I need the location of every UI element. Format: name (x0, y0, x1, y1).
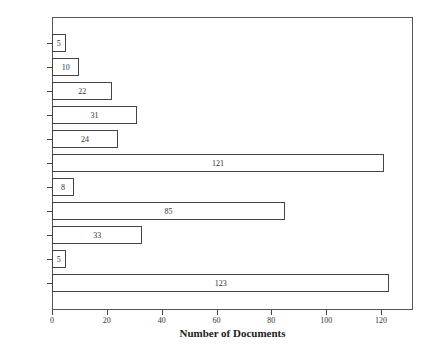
bar-value-label: 24 (81, 135, 89, 144)
x-tick-label: 40 (147, 316, 177, 325)
bar-value-label: 121 (212, 159, 224, 168)
bar-value-label: 85 (165, 207, 173, 216)
bar-media: 123 (52, 274, 389, 292)
bar-news: 8 (52, 178, 74, 196)
x-tick-label: 60 (202, 316, 232, 325)
bar-elected: 85 (52, 202, 285, 220)
y-tick (47, 43, 52, 44)
x-tick (52, 310, 53, 315)
x-axis-title: Number of Documents (52, 327, 413, 339)
x-tick-label: 120 (366, 316, 396, 325)
bar-value-label: 123 (215, 279, 227, 288)
x-tick-label: 20 (92, 316, 122, 325)
bar-lawyers: 5 (52, 250, 66, 268)
bar-value-label: 8 (61, 183, 65, 192)
y-tick (47, 67, 52, 68)
bar-value-label: 22 (78, 87, 86, 96)
bar-value-label: 5 (57, 255, 61, 264)
bar-technology: 121 (52, 154, 384, 172)
x-tick (217, 310, 218, 315)
x-tick-label: 80 (256, 316, 286, 325)
x-tick (107, 310, 108, 315)
y-tick (47, 115, 52, 116)
x-tick-label: 0 (37, 316, 67, 325)
y-tick (47, 91, 52, 92)
bar-libraries: 22 (52, 82, 112, 100)
y-tick (47, 211, 52, 212)
bar-scholars: 24 (52, 130, 118, 148)
y-tick (47, 163, 52, 164)
y-tick (47, 139, 52, 140)
y-tick (47, 283, 52, 284)
y-tick (47, 187, 52, 188)
bar-value-label: 5 (57, 39, 61, 48)
bar-ngos: 31 (52, 106, 137, 124)
bar-value-label: 33 (93, 231, 101, 240)
x-tick (381, 310, 382, 315)
x-tick (271, 310, 272, 315)
bar-value-label: 10 (62, 63, 70, 72)
y-tick (47, 259, 52, 260)
bar-value-label: 31 (91, 111, 99, 120)
x-tick (326, 310, 327, 315)
bar-other: 5 (52, 34, 66, 52)
bar-appointed: 33 (52, 226, 142, 244)
x-tick-label: 100 (311, 316, 341, 325)
y-tick (47, 235, 52, 236)
bar-education: 10 (52, 58, 79, 76)
x-tick (162, 310, 163, 315)
